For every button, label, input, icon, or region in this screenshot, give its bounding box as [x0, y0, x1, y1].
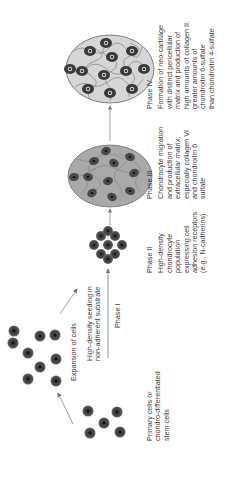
primary-cells-label: Primary cells or chondro-differentiated …	[146, 371, 171, 441]
phase1-title: Phase I	[114, 304, 122, 328]
primary-cells-cluster	[83, 406, 126, 439]
phase3-title: Phase III	[146, 127, 154, 199]
chondrogenesis-diagram: Primary cells or chondro-differentiated …	[0, 0, 235, 499]
label-line: stem cells	[163, 371, 171, 441]
phase3-description: Phase III Chondrocyte migration and prod…	[146, 127, 208, 199]
phase3-matrix-oval	[68, 145, 152, 207]
phase2-description: Phase II High-density chondrocyte popula…	[146, 212, 208, 273]
phase2-cell-diamond	[89, 226, 127, 264]
expanded-cells-cluster	[8, 326, 62, 387]
desc-line: sulfate	[199, 127, 207, 199]
arrow-to-expansion	[58, 393, 73, 424]
phase2-title: Phase II	[146, 212, 154, 273]
desc-line: (e.g., N-cadherins)	[199, 212, 207, 273]
phase4-description: Phase IV Formation of neo-cartilage with…	[146, 21, 216, 109]
arrow-to-phase2	[60, 289, 77, 314]
label-line: non-adherent substrate	[94, 286, 102, 361]
phase4-title: Phase IV	[146, 21, 154, 109]
phase4-neocartilage-oval	[64, 35, 154, 103]
expansion-label: Expansion of cells	[70, 323, 78, 381]
phase1-seeding-label: High-density seeding in non-adherent sub…	[86, 286, 103, 361]
desc-line: than chondroitin 4-sulfate	[208, 21, 216, 109]
